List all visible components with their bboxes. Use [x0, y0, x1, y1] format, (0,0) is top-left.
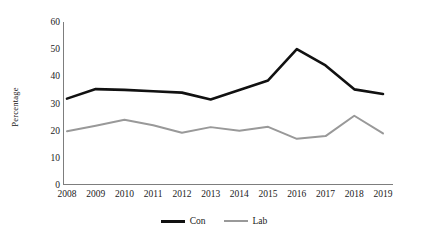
series-line-con: [67, 49, 383, 99]
y-axis-tick: 50: [38, 44, 60, 54]
y-axis-tick: 30: [38, 99, 60, 109]
y-axis-title: Percentage: [10, 62, 24, 152]
series-line-lab: [67, 116, 383, 139]
legend-item-lab[interactable]: Lab: [224, 216, 268, 227]
x-axis-tick-labels: 2008200920102011201220132014201520162017…: [63, 188, 393, 202]
y-axis-tick: 20: [38, 126, 60, 136]
x-axis-tick: 2019: [366, 188, 400, 200]
series-lines: [63, 22, 393, 185]
y-axis-tick: 60: [38, 17, 60, 27]
y-axis-tick: 10: [38, 153, 60, 163]
y-axis-tick: 40: [38, 71, 60, 81]
legend-swatch-icon: [161, 220, 185, 223]
legend-label: Con: [190, 216, 206, 227]
legend-label: Lab: [253, 216, 268, 227]
line-chart: Percentage 6050403020100 200820092010201…: [0, 0, 428, 237]
legend-swatch-icon: [224, 220, 248, 222]
chart-legend: ConLab: [0, 212, 428, 230]
plot-area: [63, 22, 393, 185]
legend-item-con[interactable]: Con: [161, 216, 206, 227]
y-axis-tick-labels: 6050403020100: [36, 0, 60, 237]
